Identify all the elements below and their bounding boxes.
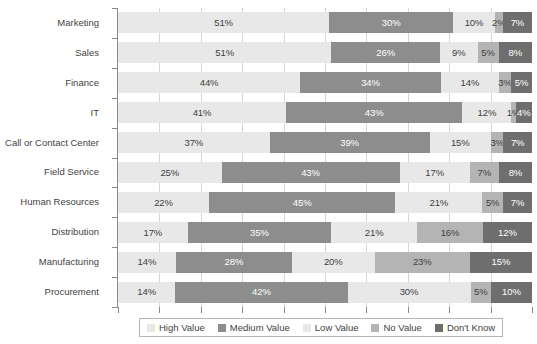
bar-segment-value-label: 35% <box>250 228 269 238</box>
bar-segment: 15% <box>430 132 491 153</box>
bar-segment: 43% <box>286 102 462 123</box>
bar-segment: 5% <box>478 42 499 63</box>
bar-segment: 9% <box>440 42 478 63</box>
bar-segment-value-label: 25% <box>160 168 179 178</box>
bar-segment: 35% <box>188 222 331 243</box>
x-axis-tick <box>201 307 202 313</box>
bar-segment: 42% <box>175 282 347 303</box>
bar-segment: 28% <box>176 252 292 273</box>
bar-segment-value-label: 5% <box>481 48 495 58</box>
bar-segment: 25% <box>118 162 222 183</box>
bar-row: 22%45%21%5%7% <box>118 192 532 213</box>
bar-segment: 5% <box>471 282 491 303</box>
bar-row: 51%26%9%5%8% <box>118 42 532 63</box>
bar-segment: 30% <box>329 12 453 33</box>
bar-segment-value-label: 17% <box>425 168 444 178</box>
x-axis-tick <box>449 307 450 313</box>
x-axis-tick <box>159 307 160 313</box>
bar-segment-value-label: 7% <box>511 18 525 28</box>
bar-segment-value-label: 14% <box>461 78 480 88</box>
bar-segment: 3% <box>491 132 503 153</box>
bar-segment-value-label: 17% <box>143 228 162 238</box>
bar-segment: 17% <box>400 162 470 183</box>
legend-swatch-icon <box>147 324 155 332</box>
x-axis-tick <box>284 307 285 313</box>
bar-segment-value-label: 43% <box>365 108 384 118</box>
bar-segment: 51% <box>118 12 329 33</box>
bar-segment: 21% <box>395 192 482 213</box>
bar-segment-value-label: 8% <box>508 48 522 58</box>
y-axis-category-label: Call or Contact Center <box>0 138 110 148</box>
legend-item[interactable]: High Value <box>147 323 205 333</box>
bar-segment-value-label: 51% <box>215 48 234 58</box>
bar-segment: 2% <box>495 12 503 33</box>
bar-segment-value-label: 5% <box>474 287 488 297</box>
bar-segment-value-label: 10% <box>465 18 484 28</box>
bar-segment: 4% <box>516 102 532 123</box>
bar-row: 14%42%30%5%10% <box>118 282 532 303</box>
bar-segment-value-label: 20% <box>324 257 343 267</box>
bar-segment-value-label: 44% <box>200 78 219 88</box>
bar-segment-value-label: 16% <box>441 228 460 238</box>
bar-segment: 41% <box>118 102 286 123</box>
x-axis-tick <box>366 307 367 313</box>
bar-segment-value-label: 15% <box>492 257 511 267</box>
bar-segment-value-label: 22% <box>154 198 173 208</box>
bar-segment-value-label: 28% <box>225 257 244 267</box>
bar-segment: 14% <box>118 252 176 273</box>
y-axis-category-label: Distribution <box>0 227 110 237</box>
bar-row: 37%39%15%3%7% <box>118 132 532 153</box>
legend-swatch-icon <box>435 324 443 332</box>
bar-segment-value-label: 34% <box>361 78 380 88</box>
bar-segment: 26% <box>331 42 440 63</box>
bar-segment: 37% <box>118 132 270 153</box>
bar-row: 51%30%10%2%7% <box>118 12 532 33</box>
bar-segment-value-label: 30% <box>400 287 419 297</box>
y-axis-category-label: Finance <box>0 78 110 88</box>
bar-segment-value-label: 7% <box>511 138 525 148</box>
bar-segment: 30% <box>348 282 471 303</box>
bar-segment: 20% <box>292 252 375 273</box>
bar-segment: 21% <box>331 222 417 243</box>
bar-segment-value-label: 4% <box>517 108 531 118</box>
bar-segment-value-label: 5% <box>486 198 500 208</box>
bar-segment: 44% <box>118 72 300 93</box>
bar-segment-value-label: 14% <box>137 287 156 297</box>
bar-segment-value-label: 8% <box>509 168 523 178</box>
bar-segment-value-label: 7% <box>511 198 525 208</box>
bar-segment: 51% <box>118 42 331 63</box>
x-axis-tick <box>532 307 533 313</box>
legend-item[interactable]: Don't Know <box>435 323 495 333</box>
bar-row: 14%28%20%23%15% <box>118 252 532 273</box>
bar-segment-value-label: 39% <box>340 138 359 148</box>
bar-row: 44%34%14%3%5% <box>118 72 532 93</box>
bar-segment: 45% <box>209 192 395 213</box>
bar-segment-value-label: 45% <box>293 198 312 208</box>
bar-segment: 10% <box>453 12 494 33</box>
x-axis-ticks <box>118 307 532 313</box>
y-axis-category-label: Human Resources <box>0 197 110 207</box>
bar-segment: 14% <box>441 72 499 93</box>
bar-segment-value-label: 14% <box>138 257 157 267</box>
bar-segment: 7% <box>503 12 532 33</box>
legend-label: No Value <box>383 323 421 333</box>
x-axis-tick <box>242 307 243 313</box>
bar-segment: 12% <box>483 222 532 243</box>
legend-label: High Value <box>159 323 205 333</box>
plot-area: 51%30%10%2%7%51%26%9%5%8%44%34%14%3%5%41… <box>118 8 532 307</box>
legend-item[interactable]: Low Value <box>303 323 359 333</box>
bar-segment: 43% <box>222 162 400 183</box>
legend-item[interactable]: No Value <box>371 323 421 333</box>
bar-segment: 10% <box>491 282 532 303</box>
x-axis-tick <box>118 307 119 313</box>
legend-label: Low Value <box>315 323 359 333</box>
y-axis-category-label: IT <box>0 108 110 118</box>
bar-segment: 7% <box>503 132 532 153</box>
stacked-bar-chart: MarketingSalesFinanceITCall or Contact C… <box>0 0 537 344</box>
bar-row: 41%43%12%1%4% <box>118 102 532 123</box>
x-axis-tick <box>325 307 326 313</box>
bar-segment: 12% <box>462 102 511 123</box>
legend-item[interactable]: Medium Value <box>218 323 290 333</box>
y-axis-category-label: Manufacturing <box>0 257 110 267</box>
bar-segment: 17% <box>118 222 188 243</box>
